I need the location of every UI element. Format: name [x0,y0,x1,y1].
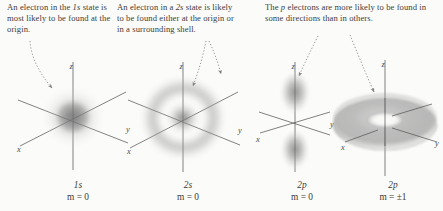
pointer-arrow-2p-m0 [299,36,318,76]
orbital-2s-diagram: z y x [126,41,242,172]
orbital-quantum-2s: m = 0 [158,192,218,204]
orbital-2s-core [163,99,203,137]
axis-label-z-2s: z [179,62,184,71]
orbital-term-2p-m0: 2p [297,180,306,190]
orbital-quantum-2p-mpm1: m = ±1 [360,192,426,204]
orbital-quantum-1s: m = 0 [48,192,108,204]
axis-label-z-2p0: z [291,62,296,71]
axis-label-x-1s: x [16,145,21,154]
orbital-term-1s: 1s [74,180,82,190]
orbital-2p-m0-diagram: z y x [255,36,334,172]
orbital-term-2s: 2s [184,180,192,190]
axis-label-x-2s: x [126,147,131,156]
orbital-2p-m0-upper-lobe [280,73,310,115]
orbital-2p-mpm1-diagram: z y x [333,35,439,176]
orbital-2p-m0-lower-lobe [281,131,309,171]
orbital-probability-figure: An electron in the 1s state is most like… [0,0,443,211]
pointer-arrow-1s [30,41,52,88]
orbital-1s-diagram: z y x [16,41,130,170]
axis-label-y-2s: y [237,126,242,135]
pointer-arrow-2p-mpm1 [350,35,374,92]
orbital-label-2s: 2s m = 0 [158,180,218,203]
orbital-label-2p-mpm1: 2p m = ±1 [360,180,426,203]
axis-label-x-2p0: x [255,135,260,144]
orbital-label-2p-m0: 2p m = 0 [272,180,332,203]
orbital-1s-core [58,103,88,131]
orbital-term-2p-mpm1: 2p [388,180,397,190]
axis-label-z-2p1: z [381,60,386,69]
pointer-arrow-2s-shell [209,41,221,74]
axis-label-x-2p1: x [340,143,345,152]
orbital-quantum-2p-m0: m = 0 [272,192,332,204]
orbital-label-1s: 1s m = 0 [48,180,108,203]
axis-label-z-1s: z [69,62,74,71]
axis-label-y-2p1: y [434,139,439,148]
axis-label-y-1s: y [125,125,130,134]
